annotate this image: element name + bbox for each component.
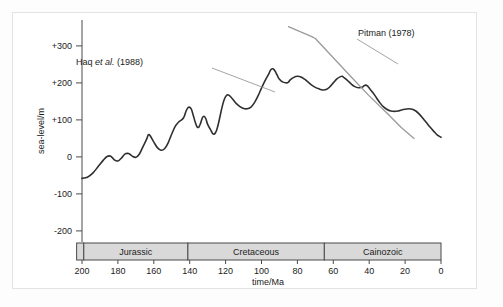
y-tick-label: +100 (52, 115, 72, 125)
y-tick-label: +200 (52, 78, 72, 88)
x-tick-label: 120 (218, 266, 233, 276)
x-tick-label: 160 (146, 266, 161, 276)
series-line-pitman (288, 27, 414, 139)
x-tick-label: 60 (328, 266, 338, 276)
pitman-annotation-leader-line (357, 39, 398, 64)
anno-text-italic: et al. (95, 57, 115, 67)
x-axis-ticks: 200180160140120100806040200 (74, 260, 443, 276)
y-axis-ticks: +300+200+1000-100-200 (52, 41, 82, 236)
anno-text-main: Haq (76, 57, 95, 67)
x-tick-label: 80 (292, 266, 302, 276)
chart-annotations-group: Haq et al. (1988)Pitman (1978) (76, 28, 415, 92)
y-axis-title: sea-level/m (36, 108, 46, 154)
x-tick-label: 200 (74, 266, 89, 276)
x-tick-label: 180 (110, 266, 125, 276)
x-tick-label: 40 (364, 266, 374, 276)
y-tick-label: -100 (54, 189, 72, 199)
haq-annotation-label: Haq et al. (1988) (76, 57, 143, 67)
chart-series-group (82, 27, 441, 179)
period-label-cretaceous: Cretaceous (233, 247, 280, 257)
x-tick-label: 100 (254, 266, 269, 276)
sea-level-chart: +300+200+1000-100-200 200180160140120100… (0, 0, 503, 307)
figure-container: +300+200+1000-100-200 200180160140120100… (0, 0, 503, 307)
geologic-period-bar: JurassicCretaceousCainozoic (77, 243, 441, 260)
pitman-annotation-label: Pitman (1978) (358, 28, 415, 38)
period-segment-triassic-sliver (77, 243, 84, 260)
y-tick-label: +300 (52, 41, 72, 51)
series-line-haq (82, 69, 441, 179)
y-tick-label: -200 (54, 226, 72, 236)
anno-text-tail: (1988) (114, 57, 143, 67)
period-label-jurassic: Jurassic (119, 247, 153, 257)
x-tick-label: 0 (438, 266, 443, 276)
period-label-cainozoic: Cainozoic (363, 247, 403, 257)
x-axis-title: time/Ma (252, 277, 284, 287)
x-tick-label: 20 (400, 266, 410, 276)
x-tick-label: 140 (182, 266, 197, 276)
y-tick-label: 0 (67, 152, 72, 162)
